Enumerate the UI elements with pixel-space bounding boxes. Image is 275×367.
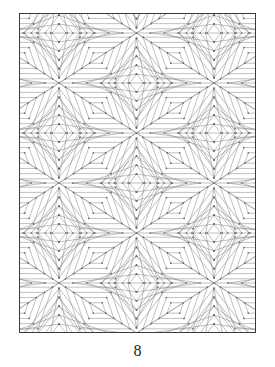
geometric-pattern-canvas [19, 13, 256, 333]
artwork-frame [19, 13, 256, 333]
coloring-book-page: 8 [0, 0, 275, 367]
page-number: 8 [0, 341, 275, 361]
